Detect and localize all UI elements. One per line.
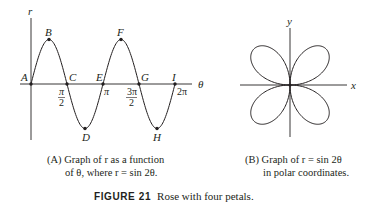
r-axis-label: r <box>28 5 33 17</box>
point-label-f: F <box>116 26 124 38</box>
point-label-c: C <box>69 71 77 83</box>
point-h <box>155 127 158 130</box>
y-axis-label: y <box>286 15 292 27</box>
point-label-a: A <box>20 71 28 83</box>
tick-pi-half-den: 2 <box>59 97 64 108</box>
caption-b-line2: in polar coordinates. <box>245 166 349 179</box>
tick-three-pi-half-den: 2 <box>129 97 134 108</box>
point-label-h: H <box>152 131 162 143</box>
point-f <box>119 38 122 41</box>
tick-pi: π <box>104 86 110 97</box>
x-axis-label: x <box>350 79 356 91</box>
point-label-b: B <box>45 26 52 38</box>
caption-a-line1: (A) Graph of r as a function <box>47 153 164 166</box>
point-label-e: E <box>95 71 103 83</box>
point-a <box>29 82 32 85</box>
caption-a: (A) Graph of r as a function of θ, where… <box>47 153 164 179</box>
polar-graph: y x <box>240 15 356 137</box>
point-label-i: I <box>171 71 177 83</box>
figure-number: FIGURE 21 <box>94 191 151 202</box>
theta-axis-label: θ <box>198 78 204 90</box>
tick-three-pi-half-num: 3π <box>127 86 137 97</box>
caption-a-line2: of θ, where r = sin 2θ. <box>47 166 164 179</box>
origin-point <box>288 83 291 86</box>
point-label-g: G <box>141 71 149 83</box>
caption-b-line1: (B) Graph of r = sin 2θ <box>245 153 349 166</box>
tick-pi-half-num: π <box>59 86 65 97</box>
point-b <box>47 38 50 41</box>
caption-b: (B) Graph of r = sin 2θ in polar coordin… <box>245 153 349 179</box>
point-label-d: D <box>81 131 90 143</box>
figure-caption-text: Rose with four petals. <box>157 190 254 202</box>
tick-two-pi: 2π <box>177 86 187 97</box>
cartesian-graph: r θ A B C D E F G H I π 2 π 3π 2 2π <box>20 5 204 143</box>
point-d <box>83 127 86 130</box>
figure-caption: FIGURE 21Rose with four petals. <box>94 190 254 202</box>
